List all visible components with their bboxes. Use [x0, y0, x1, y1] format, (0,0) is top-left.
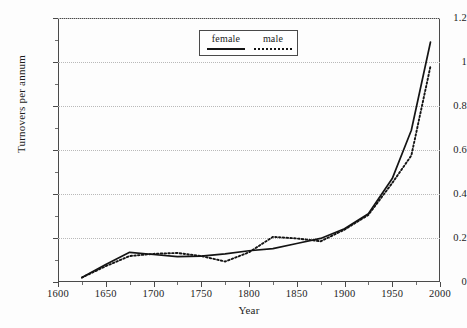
x-tick — [345, 282, 346, 287]
series-line-male — [82, 66, 431, 277]
y-tick-minor — [55, 260, 58, 261]
legend-swatch-male-dotted-line — [254, 48, 292, 50]
y-tick-minor — [55, 40, 58, 41]
x-tick-minor — [82, 282, 83, 285]
x-tick — [106, 282, 107, 287]
x-tick — [154, 282, 155, 287]
chart-figure: 00.20.40.60.811.2 1600165017001750180018… — [0, 0, 467, 328]
x-tick-label: 1750 — [177, 288, 225, 300]
y-tick — [53, 106, 58, 107]
x-tick-label: 1850 — [273, 288, 321, 300]
series-line-female — [82, 42, 431, 277]
x-tick-minor — [273, 282, 274, 285]
legend-item-female: female — [203, 33, 249, 50]
series-layer — [58, 18, 440, 282]
x-tick-label: 1800 — [225, 288, 273, 300]
y-tick-minor — [55, 84, 58, 85]
x-tick — [58, 282, 59, 287]
y-tick-label: 0.8 — [419, 100, 467, 111]
y-tick — [53, 62, 58, 63]
y-tick-label: 0 — [419, 276, 467, 287]
chart-legend: female male — [199, 30, 298, 56]
plot-area — [58, 18, 440, 282]
y-tick-label: 0.2 — [419, 232, 467, 243]
x-tick — [201, 282, 202, 287]
x-axis-title: Year — [58, 304, 440, 316]
y-tick — [53, 194, 58, 195]
x-tick-minor — [177, 282, 178, 285]
y-tick-label: 0.6 — [419, 144, 467, 155]
y-tick-minor — [55, 172, 58, 173]
y-axis-title: Turnovers per annum — [15, 39, 27, 169]
legend-label-female: female — [203, 33, 249, 45]
y-tick-label: 1 — [419, 56, 467, 67]
y-tick-label: 1.2 — [419, 12, 467, 23]
y-tick-minor — [55, 128, 58, 129]
x-tick — [392, 282, 393, 287]
x-tick-label: 1650 — [82, 288, 130, 300]
x-tick-label: 1900 — [321, 288, 369, 300]
x-tick — [297, 282, 298, 287]
y-tick — [53, 238, 58, 239]
x-tick-minor — [321, 282, 322, 285]
x-tick-minor — [368, 282, 369, 285]
x-tick-minor — [225, 282, 226, 285]
y-tick-label: 0.4 — [419, 188, 467, 199]
x-tick — [249, 282, 250, 287]
x-tick-label: 2000 — [416, 288, 464, 300]
x-tick-label: 1600 — [34, 288, 82, 300]
y-tick-minor — [55, 216, 58, 217]
x-tick-label: 1950 — [368, 288, 416, 300]
legend-swatch-female-solid-line — [207, 48, 245, 50]
y-tick — [53, 18, 58, 19]
legend-label-male: male — [251, 33, 295, 45]
legend-item-male: male — [251, 33, 295, 50]
x-tick-label: 1700 — [130, 288, 178, 300]
y-tick — [53, 150, 58, 151]
x-tick-minor — [130, 282, 131, 285]
x-tick-minor — [416, 282, 417, 285]
